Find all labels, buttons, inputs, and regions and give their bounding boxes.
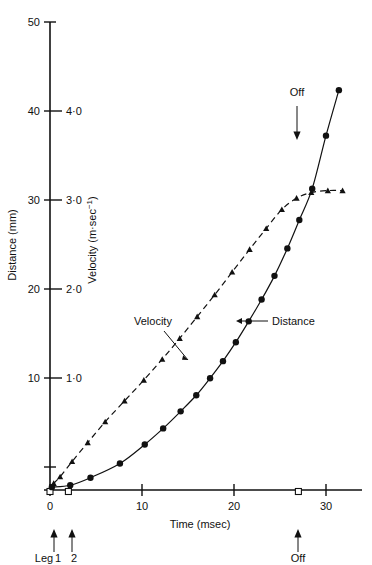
axis-event-marker [295,489,301,495]
distance-point [49,484,55,490]
y-right-tick-3: 3·0 [66,194,82,206]
leg1-event-arrow [50,529,57,552]
leg1-arrow-head [50,529,57,538]
velocity-point [247,246,253,252]
off-event-arrow [294,529,301,552]
velocity-point [159,356,165,362]
y-right-tick-labels: 4·0 3·0 2·0 1·0 [66,105,82,384]
y-right-title-mid: ·sec [86,209,98,230]
off-arrow-head-in-plot [293,132,300,141]
x-tick-0: 0 [47,500,53,512]
svg-text:Velocity (m·sec−1): Velocity (m·sec−1) [85,196,98,283]
off-arrow-head [294,529,301,538]
distance-point [87,474,93,480]
distance-point [258,296,264,302]
y-left-tick-10: 10 [28,372,40,384]
distance-point [284,245,290,251]
x-axis-tick-labels: 0 10 20 30 [47,500,332,512]
x-tick-10: 10 [136,500,148,512]
y-left-axis-title: Distance (mm) [6,209,18,281]
velocity-point [279,206,285,212]
y-right-axis-title: Velocity (m·sec−1) [85,196,98,283]
y-left-tick-30: 30 [28,194,40,206]
y-axis-ticks [44,22,62,467]
y-left-tick-40: 40 [28,105,40,117]
y-right-tick-4: 4·0 [66,105,82,117]
y-right-tick-1: 1·0 [66,372,82,384]
distance-point [336,87,342,93]
distance-point [177,408,183,414]
distance-data-points [49,87,342,490]
figure-container: 50 40 30 20 10 4·0 3·0 2·0 1·0 Distance … [0,0,372,565]
off-label-in-plot: Off [290,86,305,98]
y-right-title-suffix: ) [86,196,98,200]
scientific-plot: 50 40 30 20 10 4·0 3·0 2·0 1·0 Distance … [0,0,372,565]
leg-2-label: 2 [71,552,77,564]
y-right-tick-2: 2·0 [66,283,82,295]
axis-event-marker [65,489,71,495]
distance-point [207,375,213,381]
distance-point [142,441,148,447]
distance-point [271,273,277,279]
leg2-event-arrow [68,529,75,552]
y-left-tick-20: 20 [28,283,40,295]
distance-series-label: Distance [272,315,315,327]
leg-1-label: 1 [55,552,61,564]
leg2-arrow-head [68,529,75,538]
velocity-point [229,269,235,275]
distance-point [220,358,226,364]
distance-leader-arrowhead [236,318,242,324]
distance-point [309,185,315,191]
distance-point [323,132,329,138]
velocity-point [293,195,299,201]
velocity-leader-line [164,331,188,360]
off-axis-label: Off [291,552,306,564]
velocity-series-label: Velocity [134,315,172,327]
x-axis-title: Time (msec) [170,518,231,530]
y-right-title-prefix: Velocity (m [86,230,98,284]
leg-label: Leg [35,552,53,564]
distance-point [117,460,123,466]
distance-point [160,425,166,431]
velocity-point [85,440,91,446]
y-left-tick-labels: 50 40 30 20 10 [28,16,40,384]
distance-point [193,392,199,398]
x-tick-20: 20 [228,500,240,512]
distance-point [67,482,73,488]
x-tick-30: 30 [320,500,332,512]
y-left-tick-50: 50 [28,16,40,28]
distance-point [296,217,302,223]
distance-curve [52,90,339,487]
distance-point [233,339,239,345]
